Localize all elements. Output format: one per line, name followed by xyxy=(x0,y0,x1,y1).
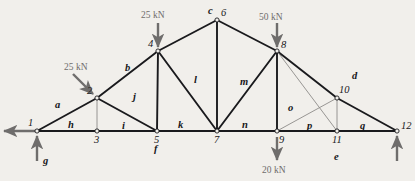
joint-label-1: 1 xyxy=(28,118,33,129)
joint-2 xyxy=(95,96,99,100)
region-label-i: i xyxy=(122,121,125,132)
region-label-g: g xyxy=(43,156,48,167)
joint-label-9: 9 xyxy=(279,135,284,146)
joint-label-10: 10 xyxy=(339,85,350,96)
joint-1 xyxy=(35,129,39,133)
truss-member-4-5 xyxy=(157,51,158,131)
joint-7 xyxy=(215,129,219,133)
load-25kn-node2-label: 25 kN xyxy=(64,63,88,73)
truss-member-10-12 xyxy=(337,98,397,131)
joint-12 xyxy=(395,129,399,133)
region-label-j: j xyxy=(133,92,136,103)
joint-5 xyxy=(155,129,159,133)
region-label-p: p xyxy=(307,121,312,132)
joint-label-3: 3 xyxy=(94,135,99,146)
joint-label-11: 11 xyxy=(332,135,342,146)
joint-11 xyxy=(335,129,339,133)
truss-svg xyxy=(0,0,415,181)
joint-10 xyxy=(335,96,339,100)
region-label-d: d xyxy=(352,71,357,82)
joint-9 xyxy=(275,129,279,133)
load-50kn-node8-label: 50 kN xyxy=(259,13,283,23)
region-label-q: q xyxy=(360,121,365,132)
truss-diagram: 123456789101112 abcdefghijklmnopq 25 kN2… xyxy=(0,0,415,181)
load-25kn-node4-label: 25 kN xyxy=(141,11,165,21)
truss-member-6-8 xyxy=(217,20,277,51)
joint-8 xyxy=(275,49,279,53)
joint-label-2: 2 xyxy=(87,86,92,97)
region-label-m: m xyxy=(240,77,248,88)
region-label-a: a xyxy=(55,100,60,111)
load-20kn-node9-label: 20 kN xyxy=(262,166,286,176)
joint-label-7: 7 xyxy=(214,135,219,146)
joint-label-6: 6 xyxy=(221,8,226,19)
truss-members xyxy=(37,20,397,131)
region-label-f: f xyxy=(154,144,158,155)
region-label-k: k xyxy=(178,120,183,131)
joint-label-8: 8 xyxy=(281,40,286,51)
truss-member-2-5 xyxy=(97,98,157,131)
truss-member-1-2 xyxy=(37,98,97,131)
truss-member-4-6 xyxy=(158,20,217,51)
truss-member-4-7 xyxy=(158,51,217,131)
joint-label-4: 4 xyxy=(148,39,153,50)
joint-6 xyxy=(215,18,219,22)
region-label-e: e xyxy=(334,152,339,163)
joint-label-12: 12 xyxy=(401,121,412,132)
region-label-b: b xyxy=(125,63,130,74)
joint-4 xyxy=(156,49,160,53)
region-label-n: n xyxy=(242,120,248,131)
truss-member-2-4 xyxy=(97,51,158,98)
region-label-l: l xyxy=(194,75,197,86)
region-label-o: o xyxy=(288,103,293,114)
joint-3 xyxy=(95,129,99,133)
region-label-c: c xyxy=(208,6,213,17)
region-label-h: h xyxy=(68,120,74,131)
